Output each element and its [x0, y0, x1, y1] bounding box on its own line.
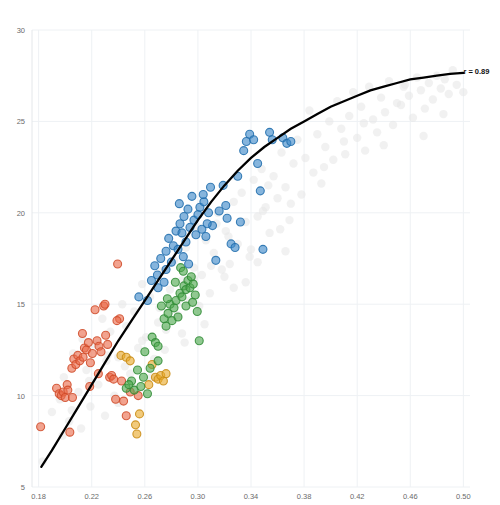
data-point[interactable] [174, 313, 182, 321]
data-point[interactable] [118, 300, 126, 308]
data-point[interactable] [273, 194, 281, 202]
data-point[interactable] [357, 103, 365, 111]
data-point[interactable] [133, 430, 141, 438]
data-point[interactable] [165, 234, 173, 242]
data-point[interactable] [68, 393, 76, 401]
data-point[interactable] [361, 146, 369, 154]
data-point[interactable] [145, 381, 153, 389]
data-point[interactable] [88, 350, 96, 358]
data-point[interactable] [373, 128, 381, 136]
data-point[interactable] [98, 315, 106, 323]
data-point[interactable] [277, 148, 285, 156]
data-point[interactable] [206, 289, 214, 297]
data-point[interactable] [250, 136, 258, 144]
data-point[interactable] [289, 159, 297, 167]
data-point[interactable] [154, 357, 162, 365]
data-point[interactable] [389, 121, 397, 129]
data-point[interactable] [419, 132, 427, 140]
data-point[interactable] [135, 293, 143, 301]
data-point[interactable] [202, 233, 210, 241]
data-point[interactable] [66, 428, 74, 436]
data-point[interactable] [341, 150, 349, 158]
data-point[interactable] [439, 110, 447, 118]
data-point[interactable] [97, 348, 105, 356]
data-point[interactable] [141, 348, 149, 356]
data-point[interactable] [114, 260, 122, 268]
data-point[interactable] [78, 329, 86, 337]
data-point[interactable] [188, 192, 196, 200]
data-point[interactable] [176, 220, 184, 228]
data-point[interactable] [102, 331, 110, 339]
data-point[interactable] [259, 207, 267, 215]
data-point[interactable] [198, 271, 206, 279]
data-point[interactable] [253, 258, 261, 266]
data-point[interactable] [154, 342, 162, 350]
data-point[interactable] [381, 108, 389, 116]
data-point[interactable] [230, 198, 238, 206]
data-point[interactable] [377, 93, 385, 101]
data-point[interactable] [137, 382, 145, 390]
data-point[interactable] [445, 90, 453, 98]
data-point[interactable] [297, 190, 305, 198]
data-point[interactable] [321, 143, 329, 151]
data-point[interactable] [399, 82, 407, 90]
data-point[interactable] [218, 265, 226, 273]
data-point[interactable] [113, 317, 121, 325]
data-point[interactable] [247, 245, 255, 253]
data-point[interactable] [256, 187, 264, 195]
data-point[interactable] [178, 293, 186, 301]
data-point[interactable] [265, 229, 273, 237]
data-point[interactable] [226, 260, 234, 268]
data-point[interactable] [245, 252, 253, 260]
data-point[interactable] [230, 284, 238, 292]
data-point[interactable] [360, 119, 368, 127]
data-point[interactable] [64, 386, 72, 394]
data-point[interactable] [301, 154, 309, 162]
data-point[interactable] [207, 183, 215, 191]
data-point[interactable] [166, 285, 174, 293]
data-point[interactable] [238, 188, 246, 196]
data-point[interactable] [179, 267, 187, 275]
data-point[interactable] [189, 298, 197, 306]
data-point[interactable] [309, 168, 317, 176]
data-point[interactable] [120, 397, 128, 405]
data-point[interactable] [138, 337, 146, 345]
data-point[interactable] [437, 84, 445, 92]
data-point[interactable] [170, 304, 178, 312]
data-point[interactable] [94, 380, 102, 388]
data-point[interactable] [101, 412, 109, 420]
data-point[interactable] [220, 273, 228, 281]
data-point[interactable] [86, 359, 94, 367]
data-point[interactable] [187, 273, 195, 281]
data-point[interactable] [287, 199, 295, 207]
data-point[interactable] [459, 88, 467, 96]
data-point[interactable] [125, 381, 133, 389]
data-point[interactable] [453, 81, 461, 89]
data-point[interactable] [179, 253, 187, 261]
data-point[interactable] [175, 200, 183, 208]
data-point[interactable] [223, 214, 231, 222]
data-point[interactable] [313, 130, 321, 138]
data-point[interactable] [212, 256, 220, 264]
data-point[interactable] [162, 370, 170, 378]
data-point[interactable] [259, 245, 267, 253]
data-point[interactable] [425, 79, 433, 87]
data-point[interactable] [203, 220, 211, 228]
data-point[interactable] [320, 163, 328, 171]
data-point[interactable] [340, 137, 348, 145]
data-point[interactable] [285, 216, 293, 224]
data-point[interactable] [132, 421, 140, 429]
data-point[interactable] [91, 306, 99, 314]
data-point[interactable] [199, 191, 207, 199]
data-point[interactable] [317, 179, 325, 187]
data-point[interactable] [405, 92, 413, 100]
data-point[interactable] [369, 115, 377, 123]
data-point[interactable] [254, 159, 262, 167]
data-point[interactable] [110, 375, 118, 383]
data-point[interactable] [409, 114, 417, 122]
data-point[interactable] [200, 320, 208, 328]
data-point[interactable] [269, 172, 277, 180]
data-point[interactable] [48, 408, 56, 416]
data-point[interactable] [264, 181, 272, 189]
data-point[interactable] [171, 278, 179, 286]
